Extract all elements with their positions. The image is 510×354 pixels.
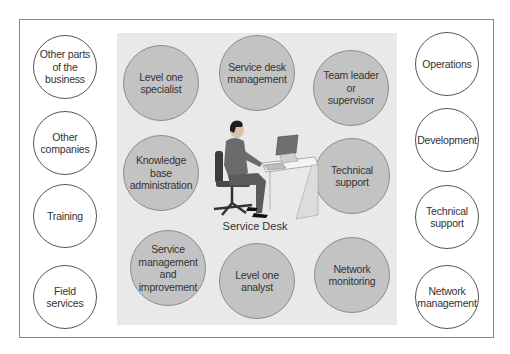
circle-label: Technical support: [331, 164, 373, 189]
external-development: Development: [415, 108, 479, 172]
circle-label: Technical support: [426, 205, 468, 230]
external-network-management: Network management: [415, 265, 479, 329]
circle-label: Network management: [417, 285, 476, 310]
role-network-monitoring: Network monitoring: [314, 237, 390, 313]
role-technical-support: Technical support: [314, 138, 390, 214]
external-technical-support: Technical support: [415, 185, 479, 249]
circle-label: Other parts of the business: [40, 48, 90, 86]
circle-label: Field services: [47, 285, 84, 310]
circle-label: Other companies: [41, 131, 90, 156]
circle-label: Operations: [422, 58, 471, 71]
role-service-desk-management: Service desk management: [219, 35, 295, 111]
circle-label: Knowledge base administration: [130, 154, 193, 192]
external-field-services: Field services: [33, 265, 97, 329]
role-level-one-specialist: Level one specialist: [123, 45, 199, 121]
external-operations: Operations: [415, 32, 479, 96]
circle-label: Team leader or supervisor: [323, 69, 379, 107]
circle-label: Training: [47, 210, 83, 223]
external-other-companies: Other companies: [33, 111, 97, 175]
role-service-management-and-improvement: Service management and improvement: [130, 230, 206, 306]
circle-label: Level one specialist: [139, 71, 183, 96]
circle-label: Level one analyst: [235, 269, 279, 294]
role-knowledge-base-administration: Knowledge base administration: [123, 135, 199, 211]
circle-label: Service management and improvement: [138, 243, 197, 293]
role-level-one-analyst: Level one analyst: [219, 243, 295, 319]
external-other-parts-of-business: Other parts of the business: [33, 35, 97, 99]
circle-label: Service desk management: [227, 61, 286, 86]
circle-label: Development: [417, 134, 477, 147]
person-at-desk-icon: [200, 115, 320, 220]
role-team-leader-or-supervisor: Team leader or supervisor: [313, 50, 389, 126]
circle-label: Network monitoring: [328, 263, 375, 288]
service-desk-label: Service Desk: [200, 220, 310, 232]
external-training: Training: [33, 184, 97, 248]
